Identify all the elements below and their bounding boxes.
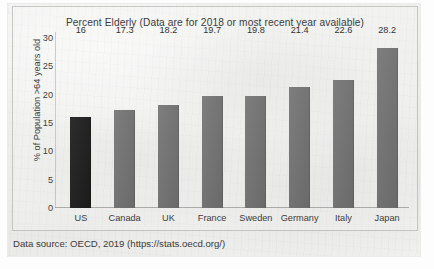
bar-group: 28.2Japan (365, 38, 409, 208)
bar-group: 22.6Italy (322, 38, 366, 208)
scanned-page: Percent Elderly (Data are for 2018 or mo… (0, 0, 434, 269)
bar-group: 19.8Sweden (234, 38, 278, 208)
bar-value-label: 22.6 (334, 25, 352, 35)
bar-italy[interactable] (333, 80, 354, 208)
bar-value-label: 21.4 (291, 25, 309, 35)
bar-group: 19.7France (190, 38, 234, 208)
y-axis-title: % of Population >64 years old (32, 25, 42, 175)
bar-uk[interactable] (158, 105, 179, 208)
y-tick-20: 20 (43, 90, 53, 100)
bar-us[interactable] (70, 117, 91, 208)
y-tick-15: 15 (43, 118, 53, 128)
bar-value-label: 17.3 (116, 25, 134, 35)
x-tick-sweden: Sweden (239, 213, 272, 223)
y-tick-5: 5 (48, 175, 53, 185)
bar-group: 17.3Canada (103, 38, 147, 208)
bar-value-label: 18.2 (159, 25, 177, 35)
bar-value-label: 16 (76, 25, 86, 35)
bar-sweden[interactable] (245, 96, 266, 208)
x-tick-italy: Italy (335, 213, 352, 223)
bar-group: 21.4Germany (278, 38, 322, 208)
bar-group: 18.2UK (147, 38, 191, 208)
bar-group: 16US (59, 38, 103, 208)
bar-value-label: 19.8 (247, 25, 265, 35)
x-tick-us: US (74, 213, 87, 223)
y-tick-30: 30 (43, 33, 53, 43)
x-tick-canada: Canada (109, 213, 141, 223)
x-tick-france: France (198, 213, 227, 223)
bar-value-label: 19.7 (203, 25, 221, 35)
plot-area: 302520151050 16US17.3Canada18.2UK19.7Fra… (59, 38, 409, 208)
bar-canada[interactable] (114, 110, 135, 208)
x-tick-japan: Japan (375, 213, 400, 223)
y-tick-0: 0 (48, 203, 53, 213)
bar-chart: Percent Elderly (Data are for 2018 or mo… (12, 6, 418, 231)
y-tick-25: 25 (43, 61, 53, 71)
y-axis-line (55, 32, 56, 208)
x-tick-uk: UK (162, 213, 175, 223)
y-tick-10: 10 (43, 146, 53, 156)
bar-japan[interactable] (377, 48, 398, 208)
bar-value-label: 28.2 (378, 25, 396, 35)
bar-series: 16US17.3Canada18.2UK19.7France19.8Sweden… (59, 38, 409, 208)
source-note: Data source: OECD, 2019 (https://stats.o… (13, 238, 225, 249)
bar-france[interactable] (202, 96, 223, 208)
bar-germany[interactable] (289, 87, 310, 208)
x-tick-germany: Germany (281, 213, 319, 223)
